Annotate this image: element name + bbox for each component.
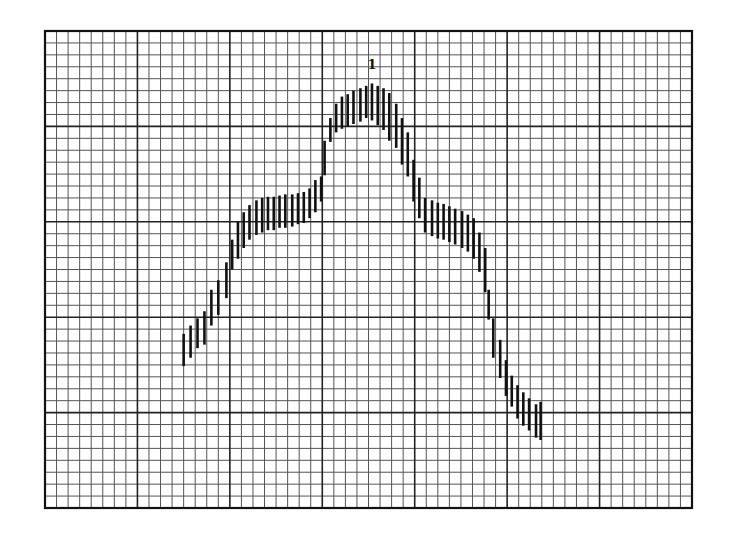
range-bars	[184, 83, 541, 440]
annotations: 1	[367, 57, 376, 72]
chart: 1	[0, 0, 732, 539]
peak-label: 1	[367, 57, 376, 72]
grid-minor-lines	[45, 31, 692, 508]
